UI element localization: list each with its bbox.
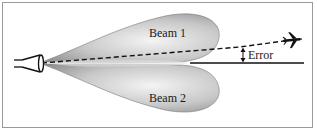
error-arrow — [241, 48, 246, 63]
beam-1-label: Beam 1 — [149, 26, 186, 40]
antenna-horn-icon — [14, 55, 44, 72]
airplane-icon — [282, 31, 303, 49]
monopulse-diagram: Error Beam 1 Beam 2 — [0, 0, 317, 130]
error-label: Error — [248, 48, 273, 62]
beam-2-label: Beam 2 — [149, 91, 186, 105]
beam-2-lobe — [42, 64, 219, 112]
